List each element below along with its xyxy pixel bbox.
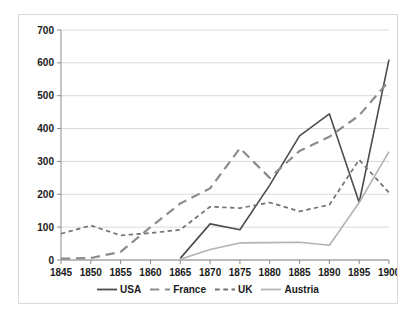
y-axis-tick-label: 700 (37, 25, 54, 36)
x-axis-tick-label: 1875 (229, 267, 252, 278)
x-axis-tick-label: 1845 (50, 267, 73, 278)
chart-legend: USAFranceUKAustria (19, 284, 397, 295)
chart-canvas: 0100200300400500600700 18451850185518601… (19, 15, 397, 303)
x-axis-tick-label: 1860 (139, 267, 162, 278)
y-axis-tick-label: 600 (37, 57, 54, 68)
series-line-uk (61, 160, 389, 236)
legend-item-uk[interactable]: UK (215, 284, 252, 295)
axes-group (57, 30, 389, 264)
legend-swatch-uk-icon (215, 285, 235, 294)
legend-label: UK (238, 284, 252, 295)
x-axis-tick-label: 1890 (318, 267, 341, 278)
x-axis-tick-label: 1865 (169, 267, 192, 278)
x-axis-tick-label: 1850 (80, 267, 103, 278)
legend-item-austria[interactable]: Austria (261, 284, 318, 295)
y-axis-tick-label: 400 (37, 123, 54, 134)
x-axis-tick-label: 1895 (348, 267, 371, 278)
legend-swatch-france-icon (150, 285, 170, 294)
series-line-france (61, 81, 389, 259)
y-axis-tick-labels: 0100200300400500600700 (37, 25, 54, 266)
x-axis-tick-label: 1855 (110, 267, 133, 278)
y-axis-tick-label: 500 (37, 90, 54, 101)
x-axis-tick-label: 1885 (288, 267, 311, 278)
series-group (61, 60, 389, 260)
legend-label: France (173, 284, 206, 295)
y-axis-tick-label: 300 (37, 156, 54, 167)
chart-card: 0100200300400500600700 18451850185518601… (18, 14, 398, 304)
y-axis-tick-label: 0 (48, 255, 54, 266)
legend-swatch-usa-icon (97, 285, 117, 294)
x-axis-tick-label: 1870 (199, 267, 222, 278)
series-line-usa (180, 60, 389, 259)
y-axis-tick-label: 100 (37, 222, 54, 233)
x-axis-tick-label: 1900 (378, 267, 397, 278)
legend-item-usa[interactable]: USA (97, 284, 141, 295)
series-line-austria (180, 152, 389, 260)
x-axis-tick-labels: 1845185018551860186518701875188018851890… (50, 267, 397, 278)
y-axis-tick-label: 200 (37, 189, 54, 200)
x-axis-tick-label: 1880 (259, 267, 282, 278)
legend-label: USA (120, 284, 141, 295)
line-chart: 0100200300400500600700 18451850185518601… (19, 15, 397, 303)
legend-swatch-austria-icon (261, 285, 281, 294)
legend-item-france[interactable]: France (150, 284, 206, 295)
legend-label: Austria (284, 284, 318, 295)
